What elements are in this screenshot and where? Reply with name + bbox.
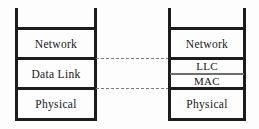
right-layer-mac-label: MAC [194, 75, 220, 87]
diagram-canvas: Network Data Link Physical Network LLC M… [0, 0, 259, 129]
left-layer-network: Network [17, 30, 95, 57]
right-layer-network: Network [170, 30, 244, 57]
left-rule-bottom [15, 118, 97, 121]
left-layer-network-label: Network [35, 38, 77, 50]
right-layer-llc: LLC [170, 59, 244, 73]
connector-network-datalink-dashed-line [96, 58, 169, 59]
right-rule-bottom [168, 118, 246, 121]
right-layer-llc-label: LLC [196, 60, 218, 72]
right-layer-network-label: Network [186, 38, 228, 50]
left-layer-physical: Physical [17, 90, 95, 118]
right-layer-physical-label: Physical [186, 98, 227, 110]
left-layer-data-link: Data Link [17, 60, 95, 87]
right-layer-physical: Physical [170, 90, 244, 118]
left-layer-data-link-label: Data Link [31, 68, 80, 80]
left-layer-physical-label: Physical [35, 98, 76, 110]
right-layer-mac: MAC [170, 74, 244, 88]
connector-datalink-physical-dashed-line [96, 88, 169, 89]
